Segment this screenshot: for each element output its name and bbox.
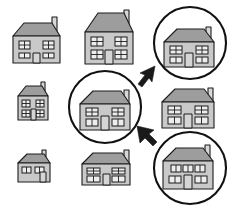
door-icon [33,53,40,63]
house-top-right[interactable] [154,7,226,79]
roof-icon [162,89,214,102]
house-top-left[interactable] [13,17,60,63]
house-top-center[interactable] [85,10,133,64]
roof-icon [80,91,130,104]
door-icon [105,50,113,64]
door-icon [40,172,46,182]
arrow-to-middle-center [137,126,157,146]
door-icon [31,109,36,120]
door-icon [101,116,109,130]
scene-svg [0,0,231,208]
roof-icon [85,13,133,32]
roof-icon [18,86,48,96]
house-middle-center[interactable] [69,71,141,143]
door-icon [103,174,110,185]
house-bottom-left[interactable] [18,150,50,182]
door-icon [184,114,192,128]
houses-diagram-canvas [0,0,231,208]
house-middle-left[interactable] [18,82,48,120]
roof-icon [82,153,130,164]
house-middle-right[interactable] [162,88,214,128]
roof-icon [13,23,60,36]
arrow-to-top-right [138,66,155,87]
door-icon [184,175,192,189]
house-bottom-center[interactable] [82,150,130,185]
windows-upper [171,165,205,172]
house-bottom-right[interactable] [154,132,226,204]
door-icon [185,53,193,67]
roof-icon [18,154,50,163]
